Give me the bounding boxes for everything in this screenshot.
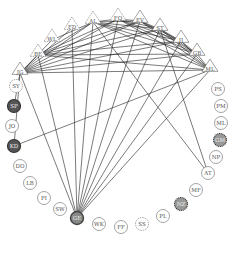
node-label: SY xyxy=(12,83,20,89)
node-ss-circle: SS xyxy=(136,218,149,231)
node-ff-circle: FF xyxy=(115,221,128,234)
node-pl-circle: PL xyxy=(157,210,170,223)
node-label: ML xyxy=(216,120,226,126)
node-label: GB xyxy=(193,50,201,56)
node-at-circle: AT xyxy=(202,167,215,180)
node-label: FD xyxy=(68,24,77,30)
node-st-triangle: ST xyxy=(152,18,168,31)
node-fd-triangle: FD xyxy=(64,17,80,30)
node-label: SS xyxy=(138,221,146,227)
node-label: EV xyxy=(136,17,145,23)
node-label: JJ xyxy=(178,37,183,44)
node-wl-triangle: WL xyxy=(44,29,60,42)
node-label: PI xyxy=(41,195,47,201)
node-pi-circle: PI xyxy=(38,192,51,205)
edge-al-jj xyxy=(93,22,181,41)
node-label: JG xyxy=(16,69,24,76)
node-label: KD xyxy=(10,143,19,149)
edge-jg-mlt xyxy=(20,70,210,73)
node-wk-circle: WK xyxy=(93,218,106,231)
node-label: BE xyxy=(34,51,42,57)
node-label: PM xyxy=(216,103,226,109)
node-label: FO xyxy=(114,15,123,21)
node-label: PS xyxy=(214,86,222,92)
node-do-circle: DO xyxy=(14,160,27,173)
node-label: AT xyxy=(203,170,212,176)
node-label: LB xyxy=(26,180,34,186)
edge-st-ge xyxy=(77,29,160,218)
node-label: SP xyxy=(10,103,18,109)
network-graph: JGBEWLFDALFOEVSTJJGBMLPSPMMLGMNPATMFNZPL… xyxy=(0,0,234,254)
network-diagram: JGBEWLFDALFOEVSTJJGBMLPSPMMLGMNPATMFNZPL… xyxy=(0,0,234,254)
node-label: GM xyxy=(215,137,225,143)
node-np-circle: NP xyxy=(210,151,223,164)
node-label: WK xyxy=(94,221,105,227)
node-kd-circle: KD xyxy=(8,140,21,153)
node-label: NP xyxy=(212,154,221,160)
edge-mlt-ge xyxy=(77,70,210,218)
node-label: PL xyxy=(159,213,167,219)
edge-fo-jj xyxy=(118,19,181,41)
edge-jg-al xyxy=(20,22,93,73)
edge-jg-gb xyxy=(20,54,197,73)
node-lb-circle: LB xyxy=(24,177,37,190)
node-label: AL xyxy=(88,18,97,24)
node-pm-circle: PM xyxy=(215,100,228,113)
edge-jj-ge xyxy=(77,41,181,218)
node-label: WL xyxy=(47,36,57,42)
node-ml-circle: ML xyxy=(215,117,228,130)
node-label: ML xyxy=(205,66,215,72)
edge-mlt-kd xyxy=(14,70,210,146)
node-be-triangle: BE xyxy=(30,44,46,57)
node-fo-triangle: FO xyxy=(110,8,126,21)
edge-gb-ge xyxy=(77,54,197,218)
node-jo-circle: JO xyxy=(6,120,19,133)
node-label: SW xyxy=(55,206,65,212)
node-label: NZ xyxy=(177,201,186,207)
node-label: GE xyxy=(73,215,81,221)
node-label: ST xyxy=(156,25,164,31)
node-sw-circle: SW xyxy=(54,203,67,216)
node-label: JO xyxy=(8,123,16,130)
node-ml-triangle: ML xyxy=(202,59,218,72)
node-sy-circle: SY xyxy=(10,80,23,93)
node-ps-circle: PS xyxy=(212,83,225,96)
node-mf-circle: MF xyxy=(190,184,203,197)
edge-jg-jj xyxy=(20,41,181,73)
node-jj-triangle: JJ xyxy=(173,30,189,44)
node-ev-triangle: EV xyxy=(132,10,148,23)
node-sp-circle: SP xyxy=(8,100,21,113)
node-al-triangle: AL xyxy=(85,11,101,24)
node-label: MF xyxy=(191,187,201,193)
edge-al-ge xyxy=(77,22,93,218)
edge-ev-gb xyxy=(140,21,197,54)
node-gm-circle: GM xyxy=(214,134,227,147)
node-label: DO xyxy=(16,163,25,169)
node-ge-circle: GE xyxy=(71,212,84,225)
edges-layer xyxy=(14,19,210,218)
edge-al-at xyxy=(93,22,208,173)
node-nz-circle: NZ xyxy=(175,198,188,211)
node-label: FF xyxy=(117,224,125,230)
